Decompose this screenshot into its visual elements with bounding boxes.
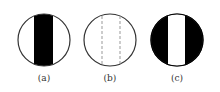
panel-c-circle: [151, 10, 203, 72]
panel-c-label: (c): [162, 73, 192, 83]
panel-b-label: (b): [95, 73, 125, 83]
panel-a-label: (a): [29, 73, 59, 83]
panel-a-circle: [18, 10, 70, 72]
panel-b-circle: [84, 14, 136, 66]
